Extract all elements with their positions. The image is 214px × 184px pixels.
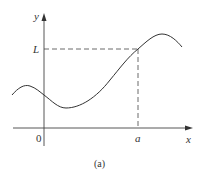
x-axis-arrow-icon: [185, 126, 193, 131]
figure-caption: (a): [94, 158, 105, 170]
origin-label: 0: [36, 132, 42, 144]
y-axis-arrow-icon: [42, 13, 47, 21]
y-mark-label: L: [32, 43, 39, 55]
limit-diagram: y L 0 a x (a): [0, 0, 214, 184]
x-axis-label: x: [185, 133, 191, 145]
x-mark-label: a: [135, 132, 141, 144]
y-axis-label: y: [33, 10, 39, 22]
